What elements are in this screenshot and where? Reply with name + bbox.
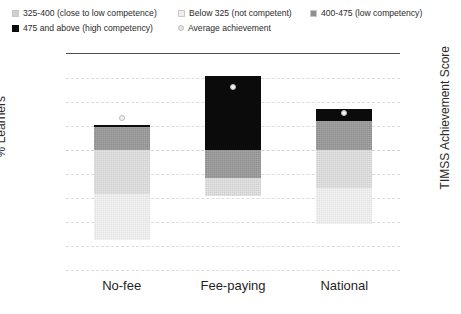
x-axis-category-label: No-fee bbox=[102, 278, 141, 293]
legend-swatch-black-icon bbox=[12, 25, 19, 32]
legend-marker-circle-icon bbox=[178, 25, 184, 31]
bar-segment-400-475 bbox=[94, 127, 150, 150]
legend-label: 325-400 (close to low competence) bbox=[23, 8, 157, 18]
average-achievement-marker bbox=[119, 115, 125, 121]
legend-item-400-475[interactable]: 400-475 (low competency) bbox=[310, 8, 422, 18]
legend-item-below-325[interactable]: Below 325 (not competent) bbox=[178, 8, 292, 18]
legend-label: Below 325 (not competent) bbox=[189, 8, 292, 18]
legend-label: 475 and above (high competency) bbox=[23, 23, 153, 33]
x-axis-category-label: Fee-paying bbox=[200, 278, 265, 293]
bar-segment-400-475 bbox=[205, 150, 261, 178]
x-axis-category-label: National bbox=[320, 278, 368, 293]
y2-axis-title: TIMSS Achievement Score bbox=[438, 46, 452, 189]
legend-swatch-light-icon bbox=[178, 10, 185, 17]
bar-segment-below-325 bbox=[94, 194, 150, 240]
timss-competency-chart: 325-400 (close to low competence) Below … bbox=[0, 0, 461, 314]
bar-segment-below-325 bbox=[316, 188, 372, 224]
legend-label: Average achievement bbox=[188, 23, 271, 33]
bar-segment-325-400 bbox=[94, 150, 150, 194]
bar-group[interactable]: No-fee bbox=[66, 54, 177, 270]
legend-item-average-achievement[interactable]: Average achievement bbox=[178, 23, 271, 33]
bar-segment-400-475 bbox=[316, 121, 372, 150]
legend-item-325-400[interactable]: 325-400 (close to low competence) bbox=[12, 8, 157, 18]
stacked-bar[interactable] bbox=[94, 54, 150, 270]
stacked-bar[interactable] bbox=[316, 54, 372, 270]
legend-label: 400-475 (low competency) bbox=[321, 8, 422, 18]
plot-area: 80%60%40%20%0%-20%-40%-60%-80%-100%50045… bbox=[66, 53, 400, 269]
bar-group[interactable]: National bbox=[289, 54, 400, 270]
legend-item-475-above[interactable]: 475 and above (high competency) bbox=[12, 23, 153, 33]
bar-group[interactable]: Fee-paying bbox=[177, 54, 288, 270]
chart-legend: 325-400 (close to low competence) Below … bbox=[10, 8, 455, 40]
bar-segment-325-400 bbox=[316, 150, 372, 188]
y-axis-title: % Learners bbox=[0, 96, 8, 157]
average-achievement-marker bbox=[230, 84, 236, 90]
bar-segment-325-400 bbox=[205, 178, 261, 196]
legend-swatch-mid-icon bbox=[12, 10, 19, 17]
gridline bbox=[66, 270, 400, 271]
legend-swatch-dark-icon bbox=[310, 10, 317, 17]
